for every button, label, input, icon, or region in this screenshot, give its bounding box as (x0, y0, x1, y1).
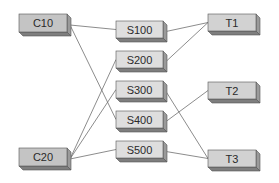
node-s300: S300 (116, 81, 167, 102)
edge-s300-t3 (166, 92, 208, 159)
node-label: S200 (127, 54, 153, 66)
node-s100: S100 (116, 21, 167, 42)
box-bottom-face (116, 68, 167, 72)
node-label: C10 (33, 17, 53, 29)
node-label: S500 (127, 144, 153, 156)
box-bottom-face (116, 158, 167, 162)
node-boxes: C10C20S100S200S300S400S500T1T2T3 (19, 14, 260, 171)
edge-c10-s100 (70, 25, 116, 30)
box-bottom-face (208, 167, 260, 171)
box-bottom-face (116, 38, 167, 42)
node-label: T1 (226, 17, 239, 29)
edge-s200-t1 (166, 23, 208, 62)
edge-c20-s500 (70, 150, 116, 160)
node-s400: S400 (116, 111, 167, 132)
mapping-diagram: C10C20S100S200S300S400S500T1T2T3 (0, 0, 279, 183)
node-label: S400 (127, 114, 153, 126)
edge-c20-s300 (70, 90, 116, 160)
edge-c10-s400 (70, 25, 116, 120)
diagram-canvas: C10C20S100S200S300S400S500T1T2T3 (0, 0, 279, 183)
node-s500: S500 (116, 141, 167, 162)
node-t3: T3 (208, 150, 260, 171)
box-bottom-face (208, 99, 260, 103)
box-bottom-face (116, 98, 167, 102)
node-t2: T2 (208, 82, 260, 103)
box-bottom-face (19, 32, 71, 36)
node-t1: T1 (208, 14, 260, 35)
node-label: T2 (226, 85, 239, 97)
edge-c20-s200 (70, 60, 116, 160)
node-c20: C20 (19, 148, 71, 170)
edge-s400-t2 (166, 91, 208, 122)
edge-s500-t3 (166, 152, 208, 159)
edge-s100-t1 (166, 23, 208, 32)
node-label: T3 (226, 153, 239, 165)
node-s200: S200 (116, 51, 167, 72)
node-label: C20 (33, 151, 53, 163)
box-bottom-face (208, 31, 260, 35)
box-bottom-face (19, 166, 71, 170)
node-label: S300 (127, 84, 153, 96)
node-c10: C10 (19, 14, 71, 36)
node-label: S100 (127, 24, 153, 36)
box-bottom-face (116, 128, 167, 132)
